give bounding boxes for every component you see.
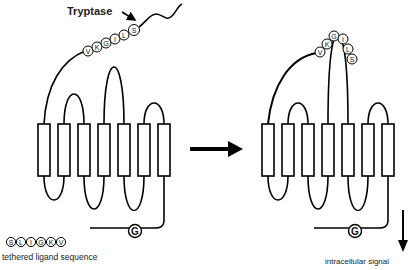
right-tethered-ligand: V K G I L S	[315, 31, 357, 64]
intracellular-loop-2	[84, 176, 104, 209]
n-terminal-tail	[139, 4, 182, 27]
tm-segment-6	[362, 124, 374, 176]
bead-l: L	[346, 46, 350, 53]
svg-text:S: S	[9, 239, 14, 246]
extracellular-loop-3	[368, 103, 388, 124]
bead-k: K	[95, 44, 100, 51]
right-receptor	[262, 36, 394, 228]
bead-l: L	[122, 32, 126, 39]
bead-g: G	[103, 40, 108, 47]
tm-segment-5	[342, 124, 354, 176]
bead-i: I	[114, 36, 116, 43]
extracellular-loop-1	[288, 103, 308, 124]
bead-v: V	[86, 48, 91, 55]
svg-text:G: G	[131, 226, 139, 237]
legend-caption: tethered ligand sequence	[2, 252, 98, 262]
svg-text:K: K	[49, 239, 54, 246]
bead-g: G	[331, 33, 336, 40]
tm-segment-1	[262, 124, 274, 176]
legend-sequence: S L I G K V	[6, 237, 65, 246]
par-activation-diagram: V K G I L S Tryptase G S L I G K V tethe…	[0, 0, 414, 270]
tm-segment-3	[302, 124, 314, 176]
left-g-protein: G	[129, 225, 142, 238]
tm-segment-4	[98, 124, 110, 176]
intracellular-loop-1	[44, 176, 64, 200]
tm-segment-1	[38, 124, 50, 176]
extracellular-loop-3	[144, 103, 164, 124]
bead-i: I	[342, 36, 344, 43]
right-g-protein: G	[349, 225, 362, 238]
signal-arrow	[398, 210, 408, 252]
intracellular-loop-2	[308, 176, 328, 209]
tm-segment-2	[58, 124, 70, 176]
left-tethered-ligand: V K G I L S	[83, 25, 140, 57]
bead-s: S	[132, 27, 137, 34]
intracellular-signal-label: intracellular signal	[325, 257, 389, 266]
extracellular-loop-1	[64, 94, 84, 124]
tm-segment-3	[78, 124, 90, 176]
bead-v: V	[318, 49, 323, 56]
extracellular-loop-2	[104, 67, 124, 124]
tm-segment-4	[322, 124, 334, 176]
tm-segment-6	[138, 124, 150, 176]
svg-text:V: V	[59, 239, 64, 246]
bead-k: K	[325, 41, 330, 48]
tm-segment-5	[118, 124, 130, 176]
svg-text:G: G	[38, 239, 43, 246]
activation-arrow	[190, 141, 243, 157]
svg-text:L: L	[19, 239, 23, 246]
intracellular-loop-3	[124, 176, 144, 211]
tm-segment-7	[158, 124, 170, 176]
tm-segment-2	[282, 124, 294, 176]
extracellular-n-terminus	[268, 53, 316, 124]
cleavage-arrow	[122, 12, 135, 20]
svg-text:I: I	[30, 239, 32, 246]
bead-s: S	[350, 56, 355, 63]
tm-segment-7	[382, 124, 394, 176]
intracellular-loop-1	[268, 176, 288, 200]
intracellular-loop-3	[348, 176, 368, 211]
tryptase-label: Tryptase	[67, 5, 112, 17]
svg-text:G: G	[351, 226, 359, 237]
